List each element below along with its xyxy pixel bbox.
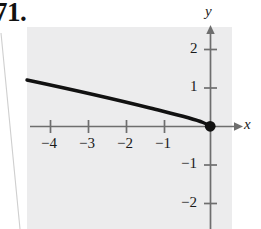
x-tick-label--2: −2 [117, 135, 133, 152]
y-tick-label--1: −1 [181, 155, 197, 172]
y-axis-arrowhead [206, 25, 214, 34]
x-axis-label: x [244, 116, 251, 133]
y-tick-label-1: 1 [190, 78, 198, 95]
y-tick-label--2: −2 [181, 194, 197, 211]
x-tick-label--3: −3 [79, 135, 95, 152]
x-axis-arrowhead [234, 122, 243, 130]
curve-path [27, 80, 210, 126]
plot-graphic [0, 0, 261, 229]
y-axis-label: y [205, 3, 212, 20]
figure-container: 71. y x −4 [0, 0, 261, 229]
x-tick-label--1: −1 [155, 135, 171, 152]
y-tick-label-2: 2 [190, 40, 198, 57]
x-tick-label--4: −4 [41, 135, 57, 152]
curve-endpoint-dot [205, 121, 216, 132]
